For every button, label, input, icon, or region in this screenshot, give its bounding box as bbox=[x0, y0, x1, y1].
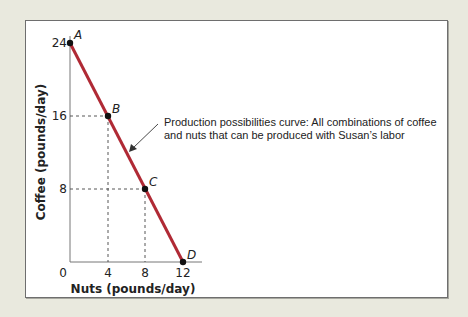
label-b: B bbox=[112, 102, 120, 116]
point-a bbox=[67, 40, 73, 46]
x-axis-title: Nuts (pounds/day) bbox=[71, 282, 196, 296]
point-c bbox=[142, 186, 148, 192]
label-c: C bbox=[149, 175, 158, 189]
point-b bbox=[105, 113, 111, 119]
label-a: A bbox=[73, 28, 82, 42]
x-tick-8: 8 bbox=[141, 266, 149, 280]
ppc-line bbox=[70, 43, 183, 262]
annotation-line-1: Production possibilities curve: All comb… bbox=[164, 116, 437, 128]
y-tick-8: 8 bbox=[59, 182, 67, 196]
x-tick-12: 12 bbox=[175, 266, 190, 280]
y-tick-24: 24 bbox=[52, 36, 67, 50]
annotation-arrow-icon bbox=[129, 124, 158, 152]
x-tick-4: 4 bbox=[104, 266, 112, 280]
label-d: D bbox=[187, 248, 196, 262]
annotation-line-2: and nuts that can be produced with Susan… bbox=[164, 129, 405, 141]
ppc-chart: A B C D 24 16 8 0 4 8 12 Nuts (pounds/da… bbox=[0, 0, 468, 317]
guide-lines bbox=[70, 116, 145, 262]
y-axis-title: Coffee (pounds/day) bbox=[34, 84, 48, 220]
point-d bbox=[180, 259, 186, 265]
x-tick-0: 0 bbox=[59, 266, 67, 280]
y-tick-16: 16 bbox=[52, 109, 67, 123]
